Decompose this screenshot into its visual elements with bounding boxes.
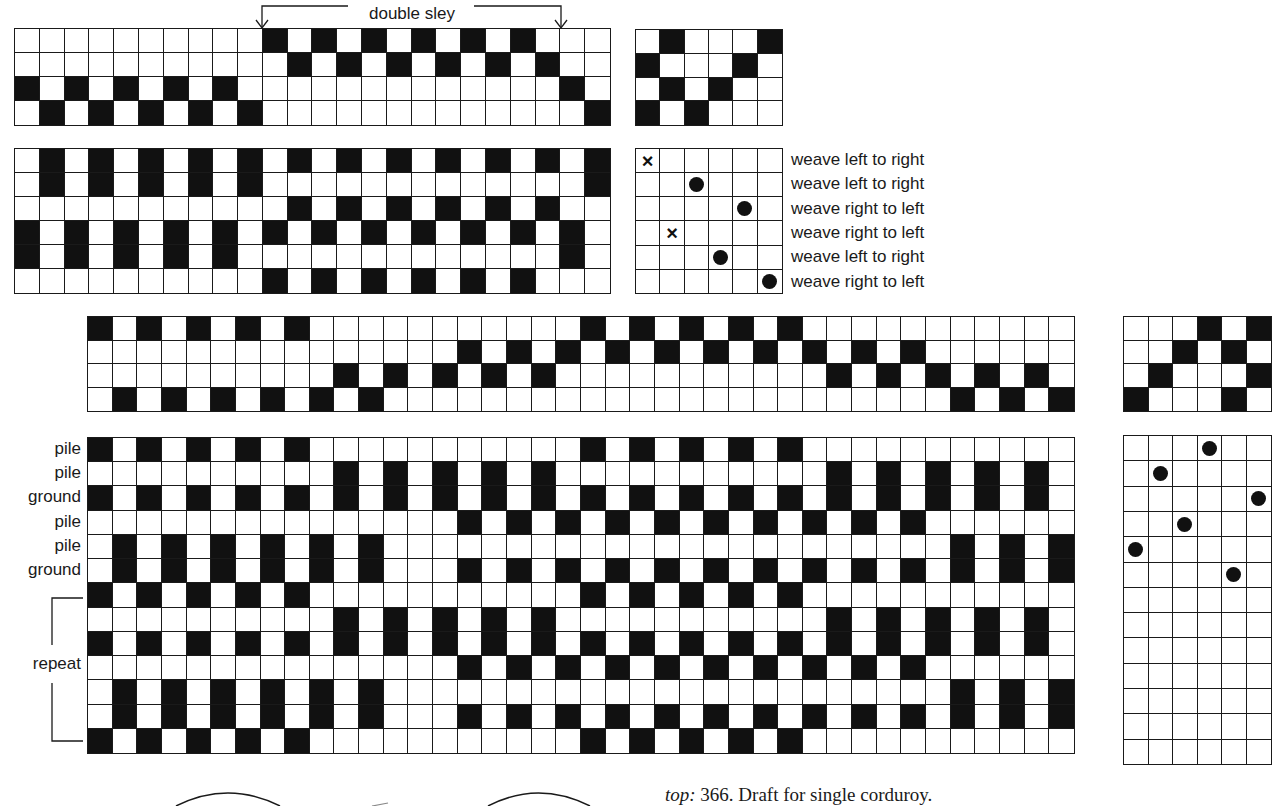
grid-cell-empty bbox=[408, 535, 433, 559]
grid-cell-filled bbox=[137, 632, 162, 656]
grid-cell-filled bbox=[187, 317, 212, 341]
grid-cell-filled bbox=[384, 462, 409, 486]
grid-cell-empty bbox=[137, 535, 162, 559]
grid-cell-empty bbox=[951, 462, 976, 486]
grid-cell-empty bbox=[1173, 638, 1198, 663]
grid-cell-empty bbox=[334, 535, 359, 559]
grid-cell-empty bbox=[461, 53, 486, 77]
dot-mark-icon bbox=[1177, 517, 1192, 532]
grid-cell-empty bbox=[532, 729, 557, 753]
grid-cell-filled bbox=[211, 680, 236, 704]
grid-cell-empty bbox=[1198, 537, 1223, 562]
grid-cell-empty bbox=[408, 438, 433, 462]
grid-cell-empty bbox=[189, 29, 214, 53]
grid-cell-empty bbox=[511, 149, 536, 173]
grid-cell-empty bbox=[211, 729, 236, 753]
grid-cell-empty bbox=[88, 364, 113, 388]
grid-cell-empty bbox=[680, 559, 705, 583]
grid-cell-empty bbox=[1222, 588, 1247, 613]
grid-cell-empty bbox=[827, 438, 852, 462]
grid-cell-filled bbox=[137, 729, 162, 753]
grid-cell-filled bbox=[285, 729, 310, 753]
grid-cell-filled bbox=[951, 705, 976, 729]
grid-cell-filled bbox=[1049, 705, 1074, 729]
grid-cell-filled bbox=[337, 197, 362, 221]
grid-cell-filled bbox=[238, 149, 263, 173]
grid-cell-filled bbox=[852, 511, 877, 535]
grid-cell-empty bbox=[359, 317, 384, 341]
grid-cell-filled bbox=[482, 608, 507, 632]
grid-cell-empty bbox=[387, 221, 412, 245]
grid-cell-filled bbox=[630, 729, 655, 753]
grid-cell-filled bbox=[581, 632, 606, 656]
grid-cell-empty bbox=[213, 53, 238, 77]
weave-direction-2: weave left to right bbox=[791, 172, 924, 196]
grid-cell-empty bbox=[65, 197, 90, 221]
grid-cell-filled bbox=[926, 608, 951, 632]
grid-cell-empty bbox=[630, 656, 655, 680]
grid-cell-empty bbox=[310, 317, 335, 341]
grid-cell-empty bbox=[754, 729, 779, 753]
grid-cell-filled bbox=[660, 78, 684, 102]
grid-cell-empty bbox=[1247, 537, 1272, 562]
grid-cell-empty bbox=[507, 583, 532, 607]
figure2-treadling-grid bbox=[1123, 435, 1272, 765]
grid-cell-empty bbox=[408, 559, 433, 583]
grid-cell-empty bbox=[585, 245, 610, 269]
grid-cell-empty bbox=[310, 438, 335, 462]
grid-cell-empty bbox=[458, 535, 483, 559]
grid-cell-filled bbox=[827, 462, 852, 486]
grid-cell-filled bbox=[334, 632, 359, 656]
grid-cell-empty bbox=[408, 341, 433, 365]
grid-cell-empty bbox=[114, 53, 139, 77]
grid-cell-empty bbox=[40, 197, 65, 221]
grid-cell-empty bbox=[1222, 436, 1247, 461]
grid-cell-empty bbox=[733, 221, 757, 245]
grid-cell-empty bbox=[1149, 740, 1174, 765]
grid-cell-empty bbox=[754, 462, 779, 486]
grid-cell-filled bbox=[729, 438, 754, 462]
grid-cell-empty bbox=[660, 246, 684, 270]
grid-cell-empty bbox=[408, 388, 433, 412]
grid-cell-filled bbox=[211, 559, 236, 583]
grid-cell-empty bbox=[433, 656, 458, 680]
grid-cell-empty bbox=[486, 29, 511, 53]
grid-cell-empty bbox=[139, 245, 164, 269]
grid-cell-empty bbox=[729, 388, 754, 412]
grid-cell-empty bbox=[310, 511, 335, 535]
grid-cell-empty bbox=[359, 583, 384, 607]
grid-cell-filled bbox=[754, 511, 779, 535]
grid-cell-empty bbox=[238, 269, 263, 293]
grid-cell-empty bbox=[139, 77, 164, 101]
grid-cell-empty bbox=[310, 462, 335, 486]
grid-cell-empty bbox=[507, 438, 532, 462]
grid-cell-empty bbox=[636, 197, 660, 221]
grid-cell-empty bbox=[1149, 588, 1174, 613]
grid-cell-empty bbox=[137, 656, 162, 680]
grid-cell-filled bbox=[139, 173, 164, 197]
grid-cell-empty bbox=[536, 269, 561, 293]
grid-cell-empty bbox=[362, 101, 387, 125]
grid-cell-empty bbox=[211, 656, 236, 680]
grid-cell-filled bbox=[852, 656, 877, 680]
grid-cell-empty bbox=[113, 341, 138, 365]
grid-cell-empty bbox=[189, 221, 214, 245]
grid-cell-empty bbox=[1222, 461, 1247, 486]
grid-cell-empty bbox=[1247, 388, 1272, 412]
grid-cell-empty bbox=[754, 680, 779, 704]
grid-cell-filled bbox=[729, 729, 754, 753]
grid-cell-empty bbox=[581, 341, 606, 365]
grid-cell-empty bbox=[729, 511, 754, 535]
grid-cell-empty bbox=[926, 535, 951, 559]
grid-cell-empty bbox=[1124, 613, 1149, 638]
grid-cell-filled bbox=[511, 221, 536, 245]
grid-cell-empty bbox=[1149, 689, 1174, 714]
grid-cell-empty bbox=[187, 705, 212, 729]
grid-cell-empty bbox=[164, 149, 189, 173]
grid-cell-empty bbox=[778, 511, 803, 535]
grid-cell-empty bbox=[1173, 388, 1198, 412]
grid-cell-empty bbox=[951, 656, 976, 680]
grid-cell-empty bbox=[1222, 714, 1247, 739]
grid-cell-empty bbox=[387, 245, 412, 269]
grid-cell-empty bbox=[436, 173, 461, 197]
